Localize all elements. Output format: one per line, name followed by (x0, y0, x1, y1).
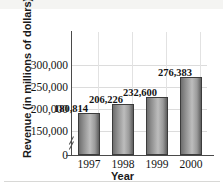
y-tick-label-300000: 300,000 (31, 59, 68, 71)
bar-chart-figure: Revenue (in millions of dollars) 300,000… (0, 0, 223, 189)
x-tick-label-1997: 1997 (78, 158, 101, 170)
data-label-1998: 206,226 (89, 94, 123, 105)
y-tick-label-250000: 250,000 (31, 81, 68, 93)
x-tick-label-1998: 1998 (112, 158, 135, 170)
y-axis-tick-labels: 300,000 250,000 200,000 150,000 0 (16, 0, 68, 189)
data-label-1999: 232,600 (123, 87, 157, 98)
bar-1998 (112, 104, 134, 155)
x-axis-title: Year (0, 170, 223, 182)
bar-2000 (180, 77, 202, 155)
gridline-horizontal-300000 (72, 65, 207, 66)
x-tick-label-2000: 2000 (180, 158, 203, 170)
y-tick-label-150000: 150,000 (31, 125, 68, 137)
axis-break-icon (66, 136, 78, 150)
data-label-2000: 276,383 (158, 67, 192, 78)
x-tick-label-1999: 1999 (146, 158, 169, 170)
bar-1999 (146, 97, 168, 155)
x-axis-line (66, 155, 214, 156)
bar-1997 (78, 113, 100, 155)
data-label-1997: 180,814 (54, 103, 88, 114)
